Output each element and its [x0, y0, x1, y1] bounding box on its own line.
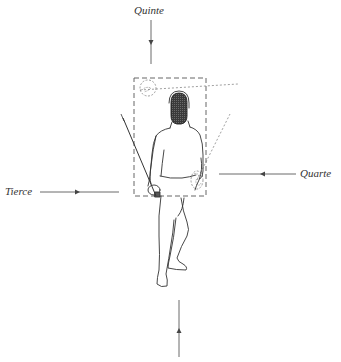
fencing-target-diagram: Quinte Tierce Quarte — [0, 0, 341, 362]
quinte-target-marker — [140, 80, 238, 96]
quarte-arrow — [219, 172, 296, 177]
diagram-graphic — [0, 0, 341, 362]
bottom-arrow — [177, 300, 182, 357]
label-quarte: Quarte — [300, 167, 331, 179]
quarte-target-marker — [191, 114, 230, 189]
label-quinte: Quinte — [134, 4, 164, 16]
fencing-mask — [171, 93, 187, 124]
tierce-arrow — [40, 190, 119, 195]
fencer-figure — [148, 91, 203, 287]
sword — [121, 114, 156, 196]
quinte-arrow — [149, 20, 154, 64]
label-tierce: Tierce — [5, 185, 32, 197]
